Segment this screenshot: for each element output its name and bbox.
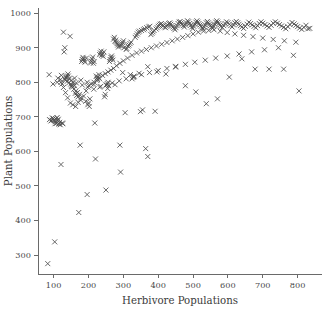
data-point-marker — [232, 31, 237, 36]
data-point-marker — [183, 62, 188, 67]
data-point-marker — [81, 94, 86, 99]
y-tick-label: 800 — [15, 77, 31, 87]
x-tick-label: 600 — [220, 280, 236, 290]
data-point-marker — [91, 87, 96, 92]
data-point-marker — [145, 154, 150, 159]
x-tick-label: 100 — [46, 280, 62, 290]
data-point-marker — [103, 71, 108, 76]
data-point-marker — [297, 88, 302, 93]
axes-group — [38, 8, 322, 274]
data-point-marker — [108, 68, 113, 73]
data-point-marker — [170, 38, 175, 43]
data-point-marker — [70, 102, 75, 107]
data-point-marker — [63, 90, 68, 95]
data-point-marker — [69, 78, 74, 83]
data-point-marker — [76, 210, 81, 215]
data-point-marker — [281, 67, 286, 72]
data-point-marker — [213, 56, 218, 61]
y-tick-label: 1000 — [10, 8, 31, 18]
data-point-marker — [137, 71, 142, 76]
data-point-marker — [196, 30, 201, 35]
data-point-marker — [237, 51, 242, 56]
data-point-marker — [225, 54, 230, 59]
x-tick-label: 800 — [290, 280, 306, 290]
data-point-marker — [65, 95, 70, 100]
data-point-marker — [68, 101, 73, 106]
data-point-marker — [276, 45, 281, 50]
data-point-marker — [262, 47, 267, 52]
x-tick-label: 400 — [150, 280, 166, 290]
data-point-marker — [117, 61, 122, 66]
data-point-marker — [72, 76, 77, 81]
data-point-marker — [62, 45, 67, 50]
data-point-marker — [68, 34, 73, 39]
data-point-marker — [180, 35, 185, 40]
data-point-marker — [139, 49, 144, 54]
x-tick-label: 500 — [185, 280, 201, 290]
x-tick-label: 200 — [81, 280, 97, 290]
data-point-marker — [239, 56, 244, 61]
data-point-marker — [164, 66, 169, 71]
data-point-marker — [225, 30, 230, 35]
x-axis-title: Herbivore Populations — [122, 295, 238, 306]
x-tick-label: 700 — [255, 280, 271, 290]
data-point-marker — [293, 40, 298, 45]
data-point-marker — [163, 71, 168, 76]
data-point-marker — [260, 36, 265, 41]
data-point-marker — [145, 64, 150, 69]
data-point-marker — [45, 261, 50, 266]
data-point-marker — [114, 63, 119, 68]
data-point-marker — [191, 31, 196, 36]
plot-canvas: 3004005006007008009001000 10020030040050… — [0, 0, 327, 317]
data-point-marker — [85, 192, 90, 197]
data-point-marker — [91, 61, 96, 66]
data-markers-group — [45, 18, 312, 266]
x-axis-ticks: 100200300400500600700800 — [46, 274, 306, 290]
data-point-marker — [87, 104, 92, 109]
data-point-marker — [121, 58, 126, 63]
data-point-marker — [140, 107, 145, 112]
data-point-marker — [125, 56, 130, 61]
data-point-marker — [227, 75, 232, 80]
y-axis-title: Plant Populations — [3, 96, 14, 186]
data-point-marker — [173, 64, 178, 69]
data-point-marker — [204, 101, 209, 106]
data-point-marker — [80, 83, 85, 88]
data-point-marker — [86, 101, 91, 106]
data-point-marker — [154, 44, 159, 49]
data-point-marker — [118, 170, 123, 175]
y-axis-ticks: 3004005006007008009001000 — [10, 8, 38, 260]
data-point-marker — [193, 89, 198, 94]
data-point-marker — [291, 53, 296, 58]
data-point-marker — [78, 78, 83, 83]
data-point-marker — [78, 98, 83, 103]
data-point-marker — [110, 80, 115, 85]
data-point-marker — [183, 83, 188, 88]
data-point-marker — [203, 58, 208, 63]
data-point-marker — [251, 34, 256, 39]
data-point-marker — [185, 33, 190, 38]
data-point-marker — [159, 42, 164, 47]
data-point-marker — [144, 47, 149, 52]
data-point-marker — [58, 162, 63, 167]
data-point-marker — [173, 65, 178, 70]
y-tick-label: 700 — [15, 112, 31, 122]
data-point-marker — [175, 37, 180, 42]
data-point-marker — [47, 72, 52, 77]
data-point-marker — [211, 27, 216, 32]
y-tick-label: 500 — [15, 181, 31, 191]
data-point-marker — [241, 33, 246, 38]
data-point-marker — [78, 143, 83, 148]
data-point-marker — [50, 82, 55, 87]
y-tick-label: 900 — [15, 43, 31, 53]
data-point-marker — [282, 38, 287, 43]
data-point-marker — [267, 67, 272, 72]
data-point-marker — [55, 80, 60, 85]
data-point-marker — [130, 53, 135, 58]
data-point-marker — [249, 49, 254, 54]
data-point-marker — [74, 80, 79, 85]
scatter-plot-figure: 3004005006007008009001000 10020030040050… — [0, 0, 327, 317]
data-point-marker — [52, 239, 57, 244]
data-point-marker — [153, 109, 158, 114]
data-point-marker — [154, 69, 159, 74]
